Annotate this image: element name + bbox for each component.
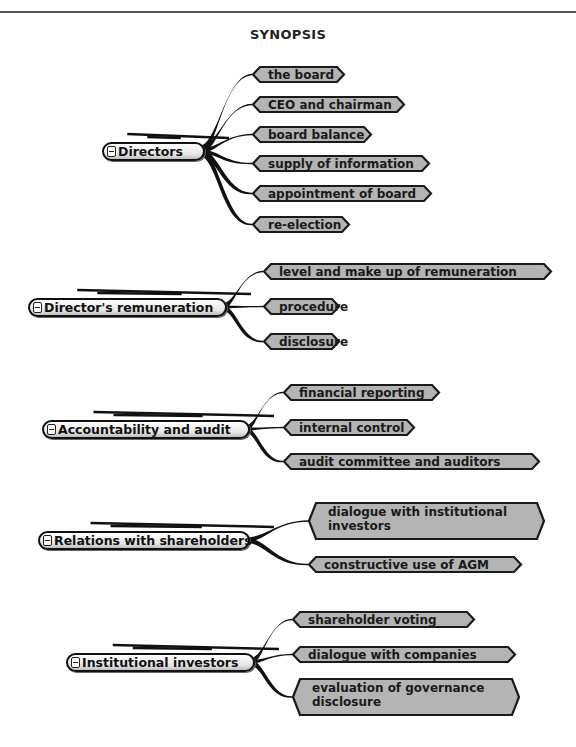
collapse-icon[interactable] — [33, 302, 42, 313]
subtopic-label: the board — [268, 68, 334, 82]
topic-label: Director's remuneration — [44, 300, 213, 315]
topic-label: Accountability and audit — [58, 422, 231, 437]
topic-directors[interactable]: Directors — [102, 142, 205, 161]
connector — [221, 304, 263, 342]
subtopic-label: disclosure — [279, 335, 348, 349]
subtopic-label: board balance — [268, 128, 364, 142]
subtopic-label: constructive use of AGM — [324, 558, 489, 572]
subtopic-supply-of-information[interactable]: supply of information — [252, 155, 430, 172]
subtopic-ceo-and-chairman[interactable]: CEO and chairman — [252, 96, 405, 113]
collapse-icon[interactable] — [43, 535, 52, 546]
subtopic-appointment-of-board[interactable]: appointment of board — [252, 185, 432, 202]
collapse-icon[interactable] — [47, 424, 56, 435]
subtopic-level-and-make-up-of-remuneration[interactable]: level and make up of remuneration — [263, 263, 552, 280]
connector — [244, 520, 308, 542]
subtopic-label: audit committee and auditors — [299, 455, 500, 469]
subtopic-label-line2: investors — [328, 519, 507, 533]
subtopic-audit-committee-and-auditors[interactable]: audit committee and auditors — [283, 453, 540, 470]
subtopic-label: evaluation of governance — [312, 681, 484, 695]
connector — [244, 392, 283, 432]
subtopic-internal-control[interactable]: internal control — [283, 419, 415, 436]
subtopic-label: procedure — [279, 300, 348, 314]
subtopic-label: supply of information — [268, 157, 414, 171]
topic-label: Directors — [118, 144, 183, 159]
connector — [249, 659, 292, 698]
topic-accountability-and-audit[interactable]: Accountability and audit — [42, 420, 250, 439]
subtopic-dialogue-with-institutional-investors[interactable]: dialogue with institutionalinvestors — [308, 502, 545, 540]
subtopic-label: shareholder voting — [308, 613, 437, 627]
subtopic-disclosure[interactable]: disclosure — [263, 333, 340, 350]
subtopic-label: dialogue with institutional — [328, 505, 507, 519]
subtopic-label: re-election — [268, 218, 341, 232]
subtopic-constructive-use-of-agm[interactable]: constructive use of AGM — [308, 556, 522, 573]
collapse-icon[interactable] — [107, 146, 116, 157]
subtopic-label: financial reporting — [299, 386, 424, 400]
connector — [244, 537, 308, 565]
subtopic-label: appointment of board — [268, 187, 416, 201]
subtopic-board-balance[interactable]: board balance — [252, 126, 372, 143]
subtopic-label: CEO and chairman — [268, 98, 392, 112]
subtopic-procedure[interactable]: procedure — [263, 298, 340, 315]
subtopic-financial-reporting[interactable]: financial reporting — [283, 384, 440, 401]
subtopic-the-board[interactable]: the board — [252, 66, 345, 83]
subtopic-evaluation-of-governance-disclosure[interactable]: evaluation of governancedisclosure — [292, 678, 520, 716]
subtopic-shareholder-voting[interactable]: shareholder voting — [292, 611, 475, 628]
subtopic-dialogue-with-companies[interactable]: dialogue with companies — [292, 646, 516, 663]
collapse-icon[interactable] — [71, 657, 80, 668]
subtopic-label: dialogue with companies — [308, 648, 477, 662]
topic-relations-with-shareholders[interactable]: Relations with shareholders — [38, 531, 250, 550]
connector — [244, 426, 283, 462]
topic-director-s-remuneration[interactable]: Director's remuneration — [28, 298, 227, 317]
connector — [199, 74, 252, 156]
subtopic-re-election[interactable]: re-election — [252, 216, 350, 233]
connector — [221, 271, 263, 310]
subtopic-label: level and make up of remuneration — [279, 265, 517, 279]
connector — [199, 104, 252, 155]
subtopic-label: internal control — [299, 421, 404, 435]
topic-institutional-investors[interactable]: Institutional investors — [66, 653, 255, 672]
subtopic-label-line2: disclosure — [312, 695, 484, 709]
topic-label: Institutional investors — [82, 655, 238, 670]
topic-label: Relations with shareholders — [54, 533, 252, 548]
connector — [249, 619, 292, 666]
